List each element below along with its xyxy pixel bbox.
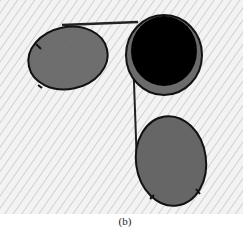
- figure-caption: (b): [0, 215, 250, 227]
- top-right-black-disc: [131, 16, 197, 86]
- hatched-background: [0, 0, 243, 214]
- diagram-figure: [0, 0, 250, 233]
